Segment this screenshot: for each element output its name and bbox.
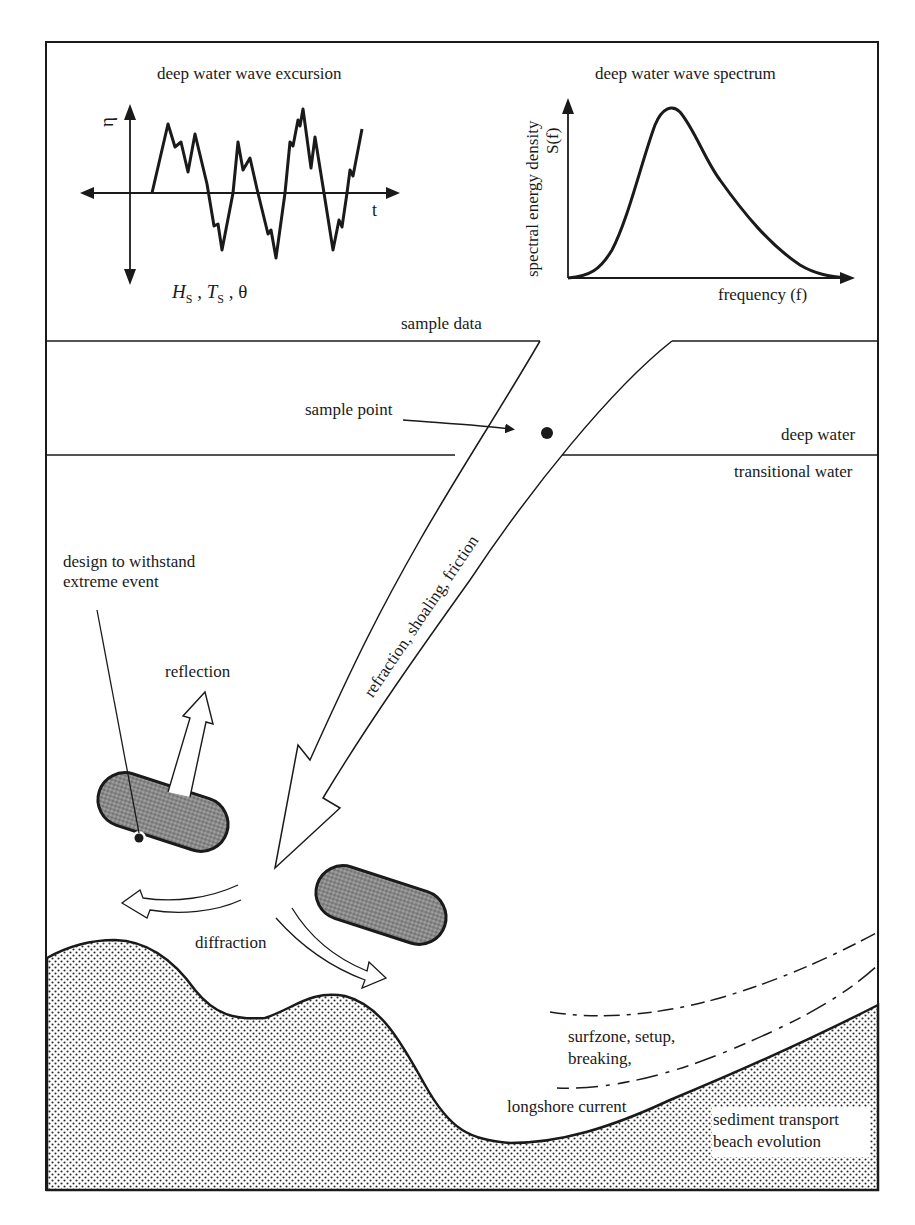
excursion-plot bbox=[80, 104, 400, 285]
reflection-label: reflection bbox=[165, 662, 230, 682]
spectrum-x-label: frequency (f) bbox=[718, 285, 807, 305]
theta-symbol: θ bbox=[238, 281, 247, 302]
design-point-dot bbox=[135, 834, 144, 843]
wave-record-line bbox=[152, 109, 362, 258]
param-sep-1: , bbox=[192, 281, 206, 302]
diffraction-label: diffraction bbox=[195, 933, 266, 953]
reflection-arrow bbox=[168, 692, 213, 797]
excursion-title: deep water wave excursion bbox=[157, 64, 342, 84]
sample-point-dot bbox=[541, 427, 553, 439]
design-label-line2: extreme event bbox=[63, 572, 159, 592]
sediment-transport-label: sediment transport bbox=[713, 1110, 839, 1130]
breakwater-left bbox=[91, 766, 235, 859]
beach-evolution-label: beach evolution bbox=[713, 1132, 821, 1152]
excursion-eta-symbol: η bbox=[97, 117, 117, 127]
breakwater-right bbox=[309, 859, 453, 952]
sample-point-label: sample point bbox=[305, 400, 392, 420]
spectrum-plot bbox=[562, 98, 855, 284]
surfzone-label-line1: surfzone, setup, bbox=[568, 1027, 675, 1047]
design-label-line1: design to withstand bbox=[63, 552, 195, 572]
longshore-current-label: longshore current bbox=[507, 1097, 626, 1117]
diagram-canvas bbox=[0, 0, 915, 1225]
spectrum-y-symbol: S(f) bbox=[543, 128, 563, 154]
excursion-parameters: HS , TS , θ bbox=[172, 282, 247, 309]
coastal-wave-processes-diagram: deep water wave excursion η t HS , TS , … bbox=[0, 0, 915, 1225]
deep-water-label: deep water bbox=[781, 425, 855, 445]
spectrum-curve bbox=[568, 108, 850, 278]
param-sep-2: , bbox=[224, 281, 238, 302]
transitional-water-label: transitional water bbox=[734, 462, 853, 482]
sample-data-label: sample data bbox=[401, 314, 482, 334]
ts-symbol: T bbox=[207, 281, 218, 302]
diffraction-arrow-left bbox=[122, 885, 241, 918]
spectrum-y-label: spectral energy density bbox=[523, 121, 543, 277]
excursion-t-symbol: t bbox=[372, 200, 377, 220]
surfzone-outer-line bbox=[550, 932, 878, 1016]
spectrum-title: deep water wave spectrum bbox=[595, 64, 776, 84]
surfzone-label-line2: breaking, bbox=[568, 1049, 632, 1069]
hs-symbol: H bbox=[172, 281, 186, 302]
refraction-arrow bbox=[275, 341, 672, 868]
ts-subscript: S bbox=[217, 292, 224, 306]
